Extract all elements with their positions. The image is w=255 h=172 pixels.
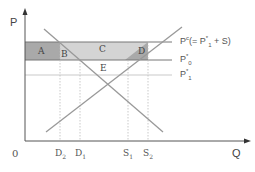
region-e-label: E	[100, 64, 107, 73]
s2-label: S2	[143, 149, 153, 158]
region-a-label: A	[38, 47, 45, 56]
p1-sup: *	[186, 68, 188, 74]
supply-demand-diagram	[0, 0, 255, 172]
x-axis-label: Q	[232, 148, 241, 159]
p0-label: P*0	[180, 55, 192, 64]
s2-sub: 2	[149, 153, 153, 160]
region-c-label: C	[99, 45, 106, 54]
p1-sub: 1	[188, 75, 191, 81]
p0-sup: *	[186, 53, 188, 59]
origin-label: 0	[12, 149, 18, 159]
pc-p1-sup: *	[206, 35, 208, 41]
p0-sub: 0	[188, 60, 191, 66]
d2-label: D2	[55, 149, 66, 158]
s1-sub: 1	[129, 153, 133, 160]
y-axis-label: P	[10, 17, 17, 28]
d2-sub: 2	[62, 153, 66, 160]
pc-rest-open: (= P	[189, 36, 206, 46]
x-axis-arrow-icon	[244, 139, 251, 144]
s1-label: S1	[123, 149, 133, 158]
p1-label: P*1	[180, 70, 192, 79]
region-d-label: D	[138, 47, 145, 56]
y-axis-arrow-icon	[23, 8, 28, 15]
pc-label: Pc(= P*1 + S)	[180, 37, 231, 46]
pc-rest-close: + S)	[211, 36, 230, 46]
d1-sub: 1	[82, 153, 86, 160]
region-b-label: B	[61, 50, 68, 59]
d1-label: D1	[75, 149, 86, 158]
